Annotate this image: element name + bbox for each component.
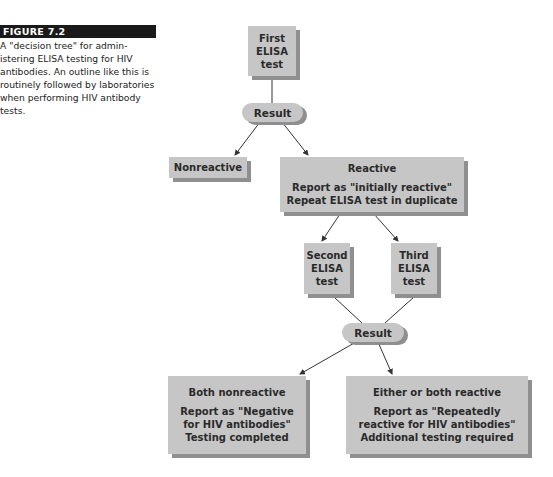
node-text: ELISA (311, 262, 343, 275)
either-reactive-node: Either or both reactive Report as "Repea… (346, 376, 528, 454)
node-text: Nonreactive (174, 161, 242, 174)
node-text: Report as "Negative (180, 405, 294, 418)
node-text: Report as "Repeatedly (374, 405, 501, 418)
both-nonreactive-node: Both nonreactive Report as "Negative for… (168, 376, 306, 454)
first-elisa-test-node: First ELISA test (248, 26, 296, 76)
node-title: Reactive (348, 162, 397, 175)
node-text: test (261, 58, 283, 71)
node-text: test (316, 275, 338, 288)
node-text: Second (306, 249, 347, 262)
result-node-2: Result (342, 323, 404, 342)
node-title: Both nonreactive (189, 386, 286, 399)
second-elisa-test-node: Second ELISA test (304, 243, 350, 294)
node-title: Either or both reactive (373, 386, 501, 399)
reactive-node: Reactive Report as "initially reactive" … (280, 157, 464, 212)
node-text: test (403, 275, 425, 288)
node-text: for HIV antibodies" (183, 418, 291, 431)
node-text: Report as "initially reactive" (292, 181, 452, 194)
node-text: reactive for HIV antibodies" (359, 418, 516, 431)
result-node-1: Result (242, 103, 303, 122)
node-text: ELISA (256, 45, 288, 58)
node-text: Testing completed (185, 431, 289, 444)
third-elisa-test-node: Third ELISA test (391, 243, 437, 294)
node-text: First (259, 32, 285, 45)
node-text: ELISA (398, 262, 430, 275)
node-text: Repeat ELISA test in duplicate (286, 194, 457, 207)
nonreactive-node: Nonreactive (169, 157, 247, 178)
node-text: Third (399, 249, 428, 262)
node-text: Additional testing required (360, 431, 513, 444)
